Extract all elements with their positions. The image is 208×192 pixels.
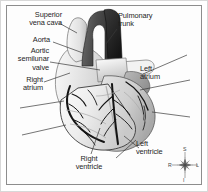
label-right-ventricle: Right ventricle [62,155,116,172]
compass-label-inferior: I [183,178,184,183]
label-left-atrium-line2: atrium [140,73,176,81]
orientation-compass: S I R L [168,148,202,184]
label-left-atrium: Left atrium [140,65,176,82]
label-right-ventricle-line2: ventricle [62,163,116,171]
label-superior-vena-cava: Superior vena cava [14,11,62,28]
label-aortic-semilunar-valve: Aortic semilunar valve [7,47,49,72]
label-pulmonary-trunk-line2: trunk [118,20,174,28]
label-pulmonary-trunk: Pulmonary trunk [118,12,174,29]
compass-label-right: R [168,163,172,168]
leader-unlabeled-lower-right [152,112,190,117]
label-superior-vena-cava-line2: vena cava [14,19,62,27]
label-right-atrium: Right atrium [13,76,43,93]
leader-unlabeled-upper-left [20,101,64,108]
compass-label-left: L [196,163,199,168]
compass-label-superior: S [183,147,186,152]
label-aortic-semilunar-valve-line3: valve [7,64,49,72]
heart-anatomy-figure: Superior vena cava Aorta Aortic semiluna… [0,0,208,192]
label-aorta-text: Aorta [14,36,50,44]
label-aorta: Aorta [14,36,50,44]
leader-unlabeled-lower-left [22,125,66,135]
label-right-atrium-line2: atrium [13,84,43,92]
